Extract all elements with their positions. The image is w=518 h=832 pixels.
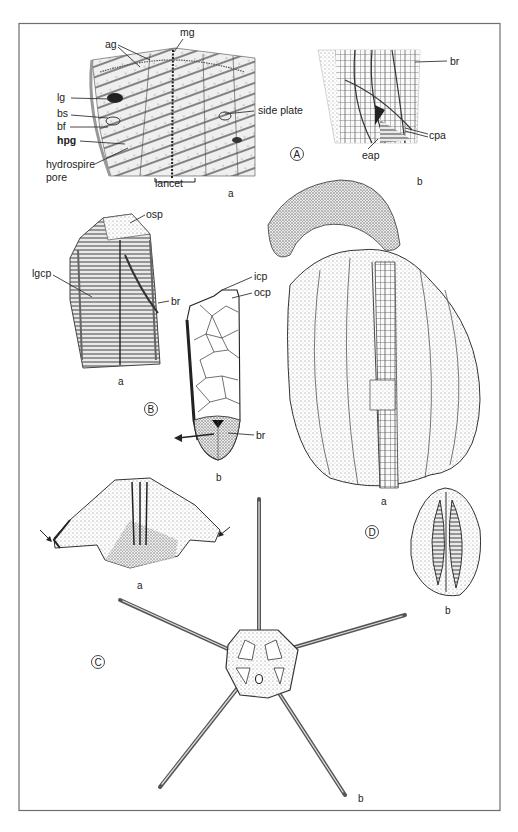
- sublabel-D-b: b: [445, 605, 451, 616]
- sublabel-C-a: a: [137, 580, 143, 591]
- label-icp: icp: [254, 270, 268, 282]
- svg-text:D: D: [369, 527, 376, 538]
- label-br: br: [450, 55, 460, 67]
- label-lg: lg: [57, 91, 65, 103]
- label-br-B-b: br: [256, 429, 266, 441]
- label-mg: mg: [180, 26, 195, 38]
- group-marker-A: A: [291, 148, 304, 161]
- group-marker-B: B: [145, 403, 158, 416]
- sublabel-A-b: b: [417, 176, 423, 187]
- label-hpg: hpg: [57, 134, 76, 146]
- figure-B-a-theca-section: [70, 214, 160, 368]
- svg-text:B: B: [148, 404, 155, 415]
- label-br-B-a: br: [171, 295, 181, 307]
- label-cpa: cpa: [429, 129, 446, 141]
- sublabel-A-a: a: [228, 188, 234, 199]
- sublabel-D-a: a: [381, 496, 387, 507]
- label-ag: ag: [105, 38, 117, 50]
- svg-text:C: C: [95, 657, 102, 668]
- label-side-plate: side plate: [258, 104, 303, 116]
- label-hydrospire: hydrospire: [46, 158, 95, 170]
- label-osp: osp: [146, 208, 163, 220]
- label-bs: bs: [57, 107, 68, 119]
- group-marker-C: C: [92, 656, 105, 669]
- svg-text:A: A: [294, 149, 301, 160]
- group-marker-D: D: [366, 526, 379, 539]
- label-lancet: lancet: [155, 177, 183, 189]
- figure-A-b-brachioles: [318, 50, 420, 143]
- figure-D-b-blastoid: [411, 488, 481, 596]
- label-ocp: ocp: [254, 286, 271, 298]
- label-lgcp: lgcp: [32, 267, 51, 279]
- figure-D-a-theca: [268, 180, 480, 488]
- label-eap: eap: [362, 149, 380, 161]
- sublabel-B-a: a: [118, 376, 124, 387]
- label-pore: pore: [46, 171, 67, 183]
- sublabel-C-b: b: [358, 793, 364, 804]
- fossil-plate: ag mg lg bs bf hpg hydrospire pore side …: [0, 0, 518, 832]
- figure-C-a-theca: [54, 478, 220, 568]
- label-bf: bf: [57, 120, 66, 132]
- figure-A-a-ambulacrum: [91, 48, 255, 182]
- sublabel-B-b: b: [216, 472, 222, 483]
